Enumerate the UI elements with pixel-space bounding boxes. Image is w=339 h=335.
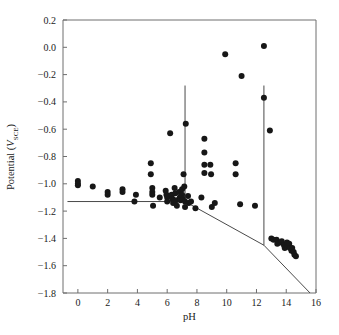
data-point [192, 205, 198, 211]
y-axis-title: Potential (VSCE) [5, 123, 20, 190]
data-point [222, 51, 228, 57]
x-tick-label: 12 [251, 297, 261, 308]
y-tick-label: −1.0 [38, 178, 56, 189]
data-point [133, 192, 139, 198]
y-axis-tick-marks [63, 20, 67, 293]
pourbaix-scatter-chart: 0.20.0−0.2−0.4−0.6−0.8−1.0−1.2−1.4−1.6−1… [0, 0, 339, 335]
y-tick-label: −0.2 [38, 69, 56, 80]
x-tick-label: 0 [75, 297, 80, 308]
data-point [267, 128, 273, 134]
y-tick-label: −1.4 [38, 233, 56, 244]
data-point [148, 171, 154, 177]
x-tick-label: 16 [311, 297, 321, 308]
axes-frame [63, 20, 316, 293]
data-point [148, 160, 154, 166]
x-axis-title-text: pH [183, 311, 196, 322]
y-axis-tick-labels: 0.20.0−0.2−0.4−0.6−0.8−1.0−1.2−1.4−1.6−1… [38, 15, 56, 299]
data-point [188, 199, 194, 205]
data-point [174, 203, 180, 209]
data-point [120, 189, 126, 195]
data-points-group [75, 43, 299, 259]
x-tick-label: 6 [165, 297, 170, 308]
data-point [233, 160, 239, 166]
data-point [237, 201, 243, 207]
data-point [181, 184, 187, 190]
x-axis-title: pH [183, 311, 196, 322]
data-point [293, 253, 299, 259]
y-tick-label: −0.6 [38, 124, 56, 135]
data-point [183, 121, 189, 127]
data-point [150, 203, 156, 209]
data-point [149, 192, 155, 198]
data-point [185, 193, 191, 199]
data-point [261, 95, 267, 101]
data-point [75, 181, 81, 187]
y-tick-label: −0.8 [38, 151, 56, 162]
data-point [233, 171, 239, 177]
boundary-lines-group [67, 86, 310, 293]
data-point [201, 149, 207, 155]
x-axis-tick-marks [78, 289, 316, 293]
data-point [164, 199, 170, 205]
y-tick-label: 0.2 [44, 15, 57, 26]
y-tick-label: −1.2 [38, 206, 56, 217]
x-axis-tick-labels: 0246810121416 [75, 297, 321, 308]
data-point [131, 199, 137, 205]
data-point [201, 136, 207, 142]
x-tick-label: 2 [105, 297, 110, 308]
data-point [208, 171, 214, 177]
data-point [172, 185, 178, 191]
x-tick-label: 8 [194, 297, 199, 308]
data-point [157, 194, 163, 200]
immunity-passivity-boundary [67, 202, 310, 293]
y-tick-label: −1.6 [38, 260, 56, 271]
data-point [207, 162, 213, 168]
y-tick-label: 0.0 [44, 42, 57, 53]
data-point [167, 130, 173, 136]
data-point [201, 162, 207, 168]
data-point [201, 170, 207, 176]
x-tick-label: 4 [135, 297, 140, 308]
data-point [239, 73, 245, 79]
data-point [105, 192, 111, 198]
y-tick-label: −1.8 [38, 288, 56, 299]
data-point [261, 43, 267, 49]
data-point [212, 200, 218, 206]
figure-container: 0.20.0−0.2−0.4−0.6−0.8−1.0−1.2−1.4−1.6−1… [0, 0, 339, 335]
axes-frame-path [63, 20, 316, 293]
x-tick-label: 14 [281, 297, 291, 308]
data-point [181, 171, 187, 177]
y-axis-title-text: Potential (VSCE) [5, 123, 20, 190]
data-point [90, 184, 96, 190]
x-tick-label: 10 [222, 297, 232, 308]
data-point [198, 194, 204, 200]
y-tick-label: −0.4 [38, 96, 56, 107]
data-point [252, 203, 258, 209]
